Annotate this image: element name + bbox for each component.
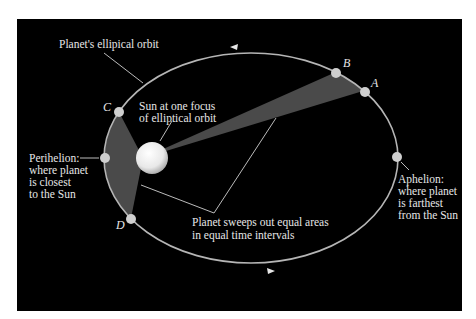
orbit-leader xyxy=(104,53,143,83)
sweeps-label-1: Planet sweeps out equal areas xyxy=(192,216,329,228)
planet-point-d xyxy=(126,214,136,224)
point-label-b: B xyxy=(343,56,350,71)
aphelion-label-4: from the Sun xyxy=(398,209,458,221)
planet-point-b xyxy=(331,68,341,78)
planet-point-c xyxy=(114,107,124,117)
aphelion-point xyxy=(392,152,402,162)
perihelion-point xyxy=(100,153,110,163)
sun xyxy=(136,142,168,174)
aphelion-leader xyxy=(401,162,409,170)
aphelion-label-3: is farthest xyxy=(398,197,443,209)
sweeps-label-2: in equal time intervals xyxy=(192,229,295,241)
orbit-label: Planet's ellipical orbit xyxy=(59,38,159,50)
planet-point-a xyxy=(360,87,370,97)
sun-label-line1: Sun at one focus xyxy=(139,100,215,112)
perihelion-label-4: to the Sun xyxy=(29,188,76,200)
perihelion-label-2: where planet xyxy=(29,164,88,176)
point-label-a: A xyxy=(371,76,378,91)
direction-arrow-bottom xyxy=(267,268,275,274)
perihelion-label-1: Perihelion: xyxy=(29,152,79,164)
perihelion-label-3: is closest xyxy=(29,176,71,188)
sun-label-line2: of elliptical orbit xyxy=(139,112,216,124)
point-label-c: C xyxy=(103,100,111,115)
point-label-d: D xyxy=(116,218,125,233)
aphelion-label-2: where planet xyxy=(398,185,457,197)
direction-arrow-top xyxy=(230,44,238,50)
sun-leader xyxy=(160,121,172,141)
aphelion-label-1: Aphelion: xyxy=(398,173,444,185)
